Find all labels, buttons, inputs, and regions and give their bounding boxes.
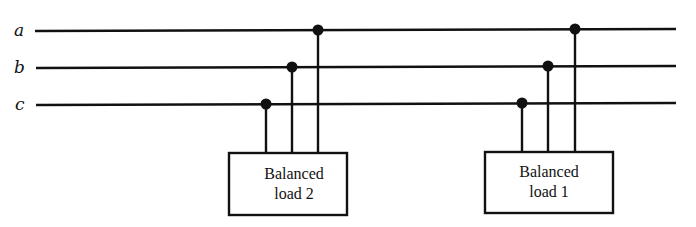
- bus-line-b: [36, 66, 676, 68]
- load-1-line2: load 1: [529, 183, 569, 200]
- load-2-connections: [261, 25, 324, 154]
- three-phase-diagram: a b c Balanced load 2 Balanced load 1: [0, 0, 696, 227]
- junction-dot-b-load2: [287, 62, 298, 73]
- load-2-line2: load 2: [274, 185, 314, 202]
- bus-label-a: a: [14, 20, 24, 40]
- load-1-line1: Balanced: [519, 163, 579, 180]
- balanced-load-2-box: Balanced load 2: [229, 153, 347, 215]
- bus-label-b: b: [14, 57, 25, 77]
- balanced-load-1-box: Balanced load 1: [485, 152, 613, 213]
- load-2-line1: Balanced: [264, 165, 324, 182]
- junction-dot-c-load2: [261, 99, 272, 110]
- bus-line-c: [36, 103, 676, 105]
- junction-dot-b-load1: [543, 61, 554, 72]
- load-2-rect: [229, 153, 347, 215]
- load-1-connections: [517, 24, 581, 153]
- bus-label-c: c: [15, 94, 25, 114]
- junction-dot-a-load2: [313, 25, 324, 36]
- junction-dot-a-load1: [570, 24, 581, 35]
- junction-dot-c-load1: [517, 98, 528, 109]
